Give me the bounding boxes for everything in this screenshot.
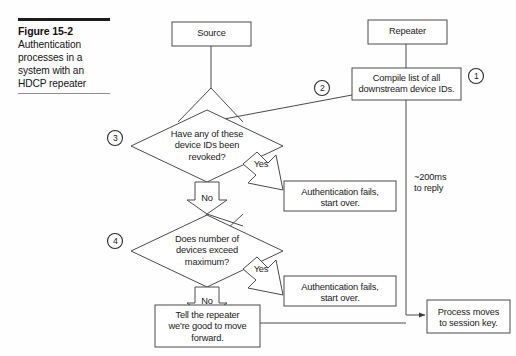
label-branch-yes-revoked: Yes	[244, 159, 278, 170]
label-auth-fail-2: Authentication fails, start over.	[284, 282, 396, 305]
label-tell-repeater: Tell the repeater we're good to move for…	[155, 310, 260, 344]
figure-page: Figure 15-2 Authentication processes in …	[0, 0, 516, 356]
label-session-key: Process moves to session key.	[427, 307, 510, 330]
label-timing-annotation: ~200ms to reply	[414, 172, 474, 195]
label-branch-no-revoked: No	[190, 193, 224, 204]
step-marker-1-label: 1	[469, 69, 484, 84]
label-branch-yes-maximum: Yes	[244, 264, 278, 275]
connector-step2-compile-to-decision	[208, 95, 352, 122]
label-branch-no-maximum: No	[190, 296, 224, 307]
label-compile-list: Compile list of all downstream device ID…	[352, 73, 461, 96]
label-repeater: Repeater	[368, 26, 447, 37]
step-marker-4-label: 4	[108, 234, 123, 249]
label-source: Source	[172, 28, 251, 39]
step-marker-2-label: 2	[315, 81, 330, 96]
label-auth-fail-1: Authentication fails, start over.	[284, 187, 396, 210]
step-marker-3-label: 3	[108, 131, 123, 146]
